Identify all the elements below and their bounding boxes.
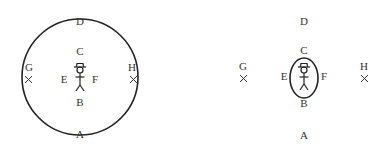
label-d: D — [76, 15, 84, 27]
person-figure-icon — [298, 64, 310, 91]
label-b: B — [76, 96, 83, 108]
label-c: C — [76, 45, 83, 57]
label-a: A — [300, 129, 308, 141]
label-f: F — [92, 73, 98, 85]
label-e: E — [61, 73, 68, 85]
label-b: B — [300, 97, 307, 109]
cross-marker-g-icon — [240, 75, 247, 82]
label-g: G — [25, 61, 33, 73]
label-a: A — [76, 128, 84, 140]
label-f: F — [321, 70, 327, 82]
left-diagram: D C G H E F B A — [22, 15, 138, 140]
person-figure-icon — [74, 64, 86, 92]
cross-marker-g-icon — [25, 76, 32, 83]
cross-marker-h-icon — [361, 75, 368, 82]
label-e: E — [281, 70, 288, 82]
cross-marker-h-icon — [130, 76, 137, 83]
label-g: G — [239, 60, 247, 72]
label-h: H — [128, 61, 136, 73]
label-c: C — [300, 44, 307, 56]
label-d: D — [300, 15, 308, 27]
diagram-canvas: D C G H E F B A D C G H E F B A — [0, 0, 386, 152]
label-h: H — [360, 60, 368, 72]
right-diagram: D C G H E F B A — [239, 15, 368, 141]
